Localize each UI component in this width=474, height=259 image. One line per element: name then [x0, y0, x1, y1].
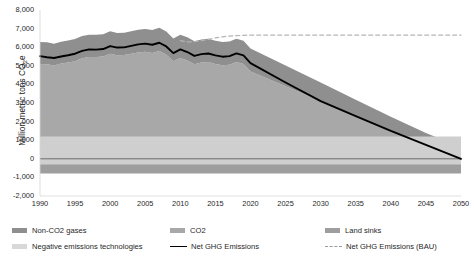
- legend-label: Net GHG Emissions: [191, 242, 259, 251]
- legend-swatch-icon: [12, 228, 27, 233]
- legend-dashed-line-icon: [325, 246, 342, 247]
- chart-legend: Non-CO2 gasesCO2Land sinksNegative emiss…: [0, 222, 463, 259]
- legend-swatch-icon: [170, 228, 185, 233]
- legend-item[interactable]: Net GHG Emissions: [170, 242, 259, 251]
- legend-label: Negative emissions technologies: [32, 242, 143, 251]
- line-net-ghg-emissions-bau: [180, 35, 461, 42]
- legend-item[interactable]: Non-CO2 gases: [12, 226, 86, 235]
- legend-label: CO2: [190, 226, 206, 235]
- legend-swatch-icon: [325, 228, 340, 233]
- legend-solid-line-icon: [170, 246, 187, 247]
- legend-label: Non-CO2 gases: [32, 226, 86, 235]
- legend-label: Net GHG Emissions (BAU): [346, 242, 437, 251]
- area-negative-emissions-technologies: [40, 136, 461, 164]
- legend-label: Land sinks: [345, 226, 381, 235]
- legend-swatch-icon: [12, 244, 27, 249]
- legend-item[interactable]: CO2: [170, 226, 206, 235]
- legend-item[interactable]: Negative emissions technologies: [12, 242, 143, 251]
- legend-item[interactable]: Land sinks: [325, 226, 381, 235]
- legend-item[interactable]: Net GHG Emissions (BAU): [325, 242, 437, 251]
